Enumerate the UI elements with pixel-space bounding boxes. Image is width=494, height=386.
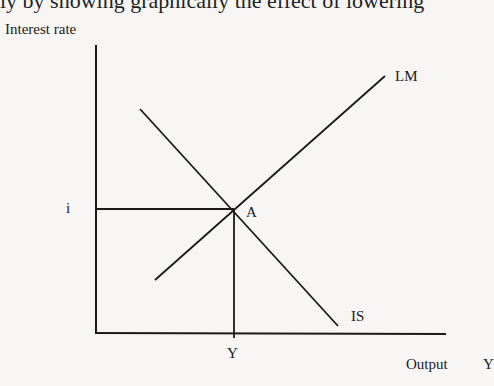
- lm-curve: [155, 76, 385, 280]
- output-level-label: Y: [227, 345, 238, 362]
- interest-level-label: i: [66, 200, 70, 217]
- equilibrium-label: A: [246, 204, 257, 221]
- x-axis: [95, 333, 446, 334]
- y-axis-label: Interest rate: [5, 21, 76, 38]
- lm-label: LM: [395, 68, 418, 85]
- is-label: IS: [351, 308, 364, 325]
- is-curve: [140, 109, 338, 326]
- x-axis-label: Output: [406, 356, 448, 373]
- is-lm-diagram: [0, 0, 494, 386]
- x-axis-symbol: Y: [483, 356, 494, 373]
